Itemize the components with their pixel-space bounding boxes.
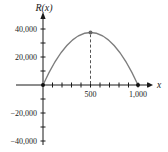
curve-layer	[41, 31, 140, 88]
x-axis-arrow-icon	[148, 82, 153, 87]
chart-canvas: 40,00020,000−20,000−40,0005001,000 R(x) …	[0, 0, 168, 152]
y-tick-label: −20,000	[10, 109, 37, 118]
x-tick-label: 500	[85, 90, 97, 99]
y-tick-label: −40,000	[10, 137, 37, 146]
y-axis-title: R(x)	[34, 2, 53, 14]
x-axis-title: x	[156, 80, 162, 90]
vertex-point	[89, 31, 93, 35]
intercept-point	[136, 83, 140, 87]
revenue-function-graph: 40,00020,000−20,000−40,0005001,000 R(x) …	[0, 0, 168, 152]
y-tick-label: 40,000	[15, 25, 37, 34]
y-tick-label: 20,000	[15, 53, 37, 62]
intercept-point	[41, 83, 45, 87]
y-axis-arrow-icon	[40, 12, 45, 19]
x-tick-label: 1,000	[129, 90, 147, 99]
